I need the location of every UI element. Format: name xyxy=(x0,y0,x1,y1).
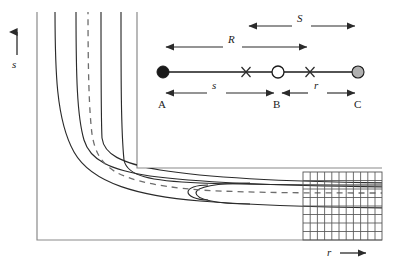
node-b-open-circle xyxy=(272,66,284,78)
diagram-svg xyxy=(0,0,395,268)
dimension-label-r: r xyxy=(314,80,318,91)
symmetry-centerline xyxy=(88,8,390,193)
dimension-label-s: s xyxy=(212,80,216,91)
centerline-group xyxy=(88,8,390,193)
dimension-label-R: R xyxy=(228,34,235,45)
streamline-outer-upper xyxy=(121,8,390,185)
node-c-gray-circle xyxy=(352,66,364,78)
streamline-outer-lower xyxy=(55,8,390,208)
figure-canvas: s r S R s r A B C xyxy=(0,0,395,268)
streamline-inner-upper xyxy=(101,8,390,183)
node-label-b: B xyxy=(273,99,280,110)
streamline-group xyxy=(55,8,390,208)
s-axis-label: s xyxy=(12,59,16,70)
dimension-arrow-group xyxy=(166,26,355,93)
node-label-a: A xyxy=(158,99,166,110)
dimension-label-S: S xyxy=(297,13,303,24)
node-a-filled-circle xyxy=(157,66,169,78)
node-label-c: C xyxy=(354,99,361,110)
r-axis-label: r xyxy=(327,247,331,258)
